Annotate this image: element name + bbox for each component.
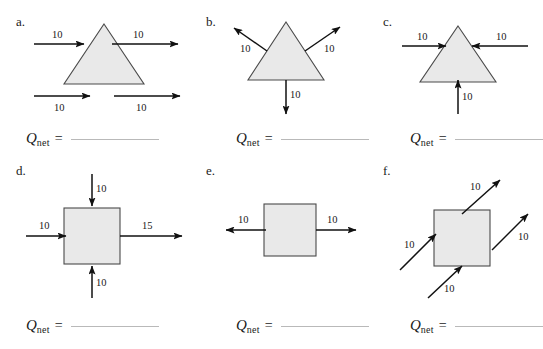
arrow-label-c-2: 10 xyxy=(462,91,473,102)
arrow-label-f-0: 10 xyxy=(470,181,481,192)
arrow-label-e-0: 10 xyxy=(238,214,249,225)
arrow-label-b-1: 10 xyxy=(324,43,335,54)
square-shape-f xyxy=(434,210,490,266)
arrow-label-f-3: 10 xyxy=(444,283,455,294)
panel-letter-c: c. xyxy=(383,14,392,30)
panel-e-svg: 10 10 xyxy=(222,196,362,266)
qnet-subscript-a: net xyxy=(37,137,50,148)
qnet-symbol-d: Q xyxy=(26,317,37,334)
arrow-upper-right-out-b xyxy=(305,27,340,51)
qnet-answer-e: Qnet = xyxy=(236,317,369,334)
qnet-symbol-b: Q xyxy=(236,130,247,147)
arrow-label-f-2: 10 xyxy=(404,239,415,250)
triangle-shape-c xyxy=(420,26,496,82)
panel-c-svg: 10 10 10 xyxy=(392,18,538,118)
panel-a-diagram: 10 10 10 10 xyxy=(28,18,188,118)
arrow-label-d-3: 15 xyxy=(142,220,153,231)
arrow-label-e-1: 10 xyxy=(327,214,338,225)
qnet-equals-e: = xyxy=(265,318,273,334)
arrow-label-f-1: 10 xyxy=(518,231,529,242)
arrow-label-b-0: 10 xyxy=(240,43,251,54)
arrow-label-b-2: 10 xyxy=(290,89,301,100)
qnet-equals-b: = xyxy=(265,131,273,147)
panel-letter-a: a. xyxy=(16,14,25,30)
arrow-label-a-0: 10 xyxy=(52,29,63,40)
qnet-blank-f[interactable] xyxy=(455,326,543,327)
arrow-label-d-1: 10 xyxy=(39,220,50,231)
qnet-subscript-d: net xyxy=(37,324,50,335)
panel-e-diagram: 10 10 xyxy=(222,196,362,266)
arrow-label-a-1: 10 xyxy=(133,29,144,40)
qnet-subscript-b: net xyxy=(247,137,260,148)
qnet-answer-b: Qnet = xyxy=(236,130,369,147)
qnet-answer-f: Qnet = xyxy=(410,317,543,334)
panel-f-diagram: 10 10 10 10 xyxy=(396,178,540,300)
qnet-answer-d: Qnet = xyxy=(26,317,159,334)
panel-b-svg: 10 10 10 xyxy=(218,14,368,120)
arrow-label-a-3: 10 xyxy=(136,102,147,113)
qnet-equals-d: = xyxy=(55,318,63,334)
qnet-blank-d[interactable] xyxy=(71,326,159,327)
square-shape-e xyxy=(264,204,316,256)
panel-d-svg: 10 10 10 15 xyxy=(20,172,190,300)
qnet-equals-a: = xyxy=(55,131,63,147)
qnet-symbol-e: Q xyxy=(236,317,247,334)
panel-c-diagram: 10 10 10 xyxy=(392,18,538,118)
qnet-subscript-c: net xyxy=(421,137,434,148)
panel-a-svg: 10 10 10 10 xyxy=(28,18,188,118)
panel-letter-e: e. xyxy=(206,163,215,179)
qnet-subscript-f: net xyxy=(421,324,434,335)
triangle-shape-b xyxy=(248,22,324,80)
panel-f-svg: 10 10 10 10 xyxy=(396,178,540,300)
panel-letter-b: b. xyxy=(206,14,216,30)
qnet-answer-c: Qnet = xyxy=(410,130,543,147)
qnet-symbol-a: Q xyxy=(26,130,37,147)
panel-d-diagram: 10 10 10 15 xyxy=(20,172,190,300)
arrow-upper-left-out-b xyxy=(234,28,267,51)
square-shape-d xyxy=(64,208,120,264)
qnet-blank-a[interactable] xyxy=(71,139,159,140)
arrow-label-d-0: 10 xyxy=(96,183,107,194)
qnet-symbol-f: Q xyxy=(410,317,421,334)
qnet-subscript-e: net xyxy=(247,324,260,335)
qnet-equals-c: = xyxy=(439,131,447,147)
arrow-top-out-f xyxy=(462,180,500,214)
qnet-blank-b[interactable] xyxy=(281,139,369,140)
qnet-equals-f: = xyxy=(439,318,447,334)
triangle-shape-a xyxy=(64,24,144,84)
panel-b-diagram: 10 10 10 xyxy=(218,14,368,120)
qnet-blank-e[interactable] xyxy=(281,326,369,327)
arrow-label-a-2: 10 xyxy=(54,102,65,113)
panel-letter-f: f. xyxy=(383,163,391,179)
arrow-label-c-1: 10 xyxy=(496,31,507,42)
arrow-label-c-0: 10 xyxy=(417,31,428,42)
qnet-symbol-c: Q xyxy=(410,130,421,147)
arrow-label-d-2: 10 xyxy=(96,277,107,288)
qnet-blank-c[interactable] xyxy=(455,139,543,140)
qnet-answer-a: Qnet = xyxy=(26,130,159,147)
